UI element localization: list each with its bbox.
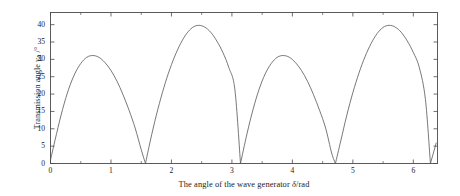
chart-figure: Transmission angle γA /° The angle of th… [0,0,460,196]
y-tick-label: 10 [25,124,45,133]
x-tick-label: 2 [161,166,181,175]
x-tick-label: 4 [282,166,302,175]
x-axis-title-text: The angle of the wave generator [179,180,292,189]
y-tick-label: 25 [25,72,45,81]
y-tick-label: 35 [25,37,45,46]
y-tick-label: 20 [25,89,45,98]
plot-frame [51,13,438,164]
y-tick-label: 0 [25,159,45,168]
x-tick-label: 6 [403,166,423,175]
x-tick-label: 3 [222,166,242,175]
x-axis-title-unit: /rad [296,180,309,189]
y-tick-label: 15 [25,106,45,115]
axis-ticks [51,13,438,164]
y-tick-label: 40 [25,20,45,29]
data-curve-group [51,25,437,163]
x-tick-label: 5 [343,166,363,175]
transmission-angle-curve [51,25,437,163]
y-tick-label: 5 [25,141,45,150]
y-tick-label: 30 [25,54,45,63]
x-axis-title: The angle of the wave generator δ/rad [50,180,438,189]
x-tick-label: 1 [101,166,121,175]
